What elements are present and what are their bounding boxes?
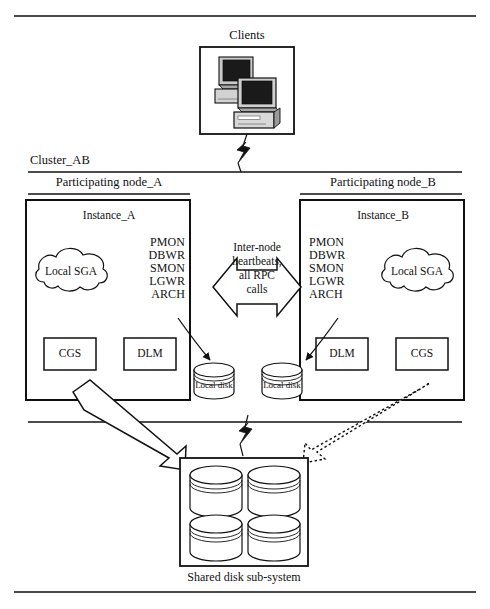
- diagram-canvas: Clients Cluster_AB Participating node_A …: [0, 0, 490, 609]
- shared-disk-label: Shared disk sub-system: [187, 571, 300, 584]
- interconnect-line: heartbeats,: [232, 254, 282, 268]
- disk-cylinder-icon-shared-3: [190, 515, 242, 561]
- instance-b-label: Instance_B: [357, 209, 409, 221]
- disk-cylinder-icon-shared-4: [248, 515, 300, 561]
- cgs-b-label: CGS: [411, 347, 433, 359]
- clients-title: Clients: [229, 29, 264, 43]
- lightning-bolt-icon-bottom: [239, 415, 252, 456]
- process-list-a: PMON DBWR SMON LGWR ARCH: [149, 236, 185, 301]
- disk-cylinder-icon-shared-1: [190, 466, 242, 517]
- process-item: PMON: [309, 236, 345, 249]
- interconnect-line: Inter-node: [232, 240, 282, 254]
- cluster-label: Cluster_AB: [30, 154, 90, 168]
- interconnect-label: Inter-node heartbeats, all RPC calls: [232, 240, 282, 296]
- process-item: DBWR: [149, 249, 185, 262]
- local-disk-a-label: Local disk: [195, 381, 233, 391]
- process-item: PMON: [149, 236, 185, 249]
- process-item: DBWR: [309, 249, 345, 262]
- process-item: SMON: [149, 262, 185, 275]
- diagram-graphics: [0, 0, 490, 609]
- local-disk-b-label: Local disk: [263, 381, 301, 391]
- instance-a-label: Instance_A: [83, 209, 135, 221]
- process-item: ARCH: [309, 288, 345, 301]
- process-item: ARCH: [149, 288, 185, 301]
- process-item: SMON: [309, 262, 345, 275]
- process-item: LGWR: [309, 275, 345, 288]
- interconnect-line: calls: [232, 282, 282, 296]
- lightning-bolt-icon-top: [237, 134, 250, 172]
- cgs-a-label: CGS: [59, 347, 81, 359]
- process-item: LGWR: [149, 275, 185, 288]
- node-b-label: Participating node_B: [330, 176, 436, 190]
- sga-b-label: Local SGA: [391, 265, 443, 277]
- disk-cylinder-icon-shared-2: [248, 466, 300, 517]
- sga-a-label: Local SGA: [45, 265, 97, 277]
- process-list-b: PMON DBWR SMON LGWR ARCH: [309, 236, 345, 301]
- dlm-a-label: DLM: [137, 347, 163, 359]
- interconnect-line: all RPC: [232, 268, 282, 282]
- dlm-b-label: DLM: [329, 347, 355, 359]
- node-a-label: Participating node_A: [56, 176, 163, 190]
